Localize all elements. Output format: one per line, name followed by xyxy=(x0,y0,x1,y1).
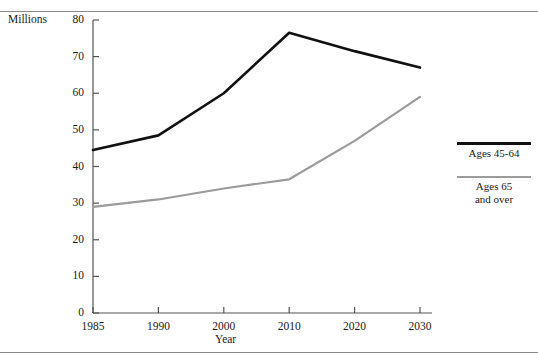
series-line-ages-65-and-over xyxy=(93,97,420,207)
figure-page: Millions Year 80 70 60 50 40 30 20 10 0 … xyxy=(0,0,538,362)
x-axis-ticks xyxy=(93,307,420,313)
bottom-rule xyxy=(0,352,538,353)
legend-label-and-over: and over xyxy=(457,193,531,206)
series-line-ages-45-64 xyxy=(93,33,420,150)
legend-entry-ages-45-64: Ages 45-64 xyxy=(457,142,531,160)
legend-entry-ages-65-and-over: Ages 65 and over xyxy=(457,176,531,206)
axis-lines xyxy=(93,20,432,313)
y-axis-ticks xyxy=(93,20,99,313)
legend-label-ages-45-64: Ages 45-64 xyxy=(457,145,531,160)
legend-label-ages-65: Ages 65 xyxy=(457,178,531,193)
